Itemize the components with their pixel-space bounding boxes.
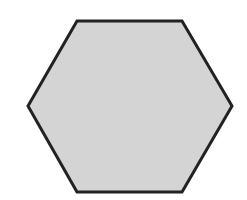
diagram-canvas [0,0,247,200]
hexagon-shape [28,21,232,192]
